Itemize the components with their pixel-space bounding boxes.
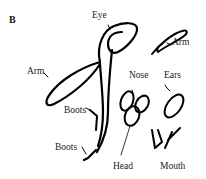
diagram-panel: B bbox=[0, 0, 206, 179]
head-leader bbox=[121, 126, 130, 155]
boots-lower-leader bbox=[82, 147, 86, 154]
lower-boot-shape bbox=[84, 150, 96, 160]
left-arm-shape bbox=[47, 62, 100, 105]
arm-left-leader bbox=[44, 73, 48, 77]
head-loop-shape bbox=[132, 93, 151, 115]
ears-leader bbox=[165, 85, 170, 91]
label-nose: Nose bbox=[129, 71, 149, 81]
boots-upper-leader bbox=[86, 108, 90, 110]
label-eye: Eye bbox=[92, 11, 107, 21]
drawing-strokes bbox=[0, 0, 206, 179]
label-ears: Ears bbox=[164, 71, 181, 81]
label-head: Head bbox=[113, 162, 133, 172]
mouth-shape-1 bbox=[152, 130, 162, 148]
eye-shape bbox=[99, 23, 137, 62]
mouth-shape-2 bbox=[165, 128, 180, 148]
upper-boot-shape bbox=[90, 110, 97, 130]
label-mouth: Mouth bbox=[160, 162, 185, 172]
label-arm-left: Arm bbox=[27, 67, 44, 77]
label-boots-upper: Boots bbox=[64, 106, 86, 116]
head-shape bbox=[122, 104, 142, 128]
body-line-1 bbox=[98, 64, 103, 146]
label-boots-lower: Boots bbox=[55, 143, 77, 153]
ears-shape bbox=[161, 91, 187, 120]
label-arm-right: Arm bbox=[172, 38, 189, 48]
